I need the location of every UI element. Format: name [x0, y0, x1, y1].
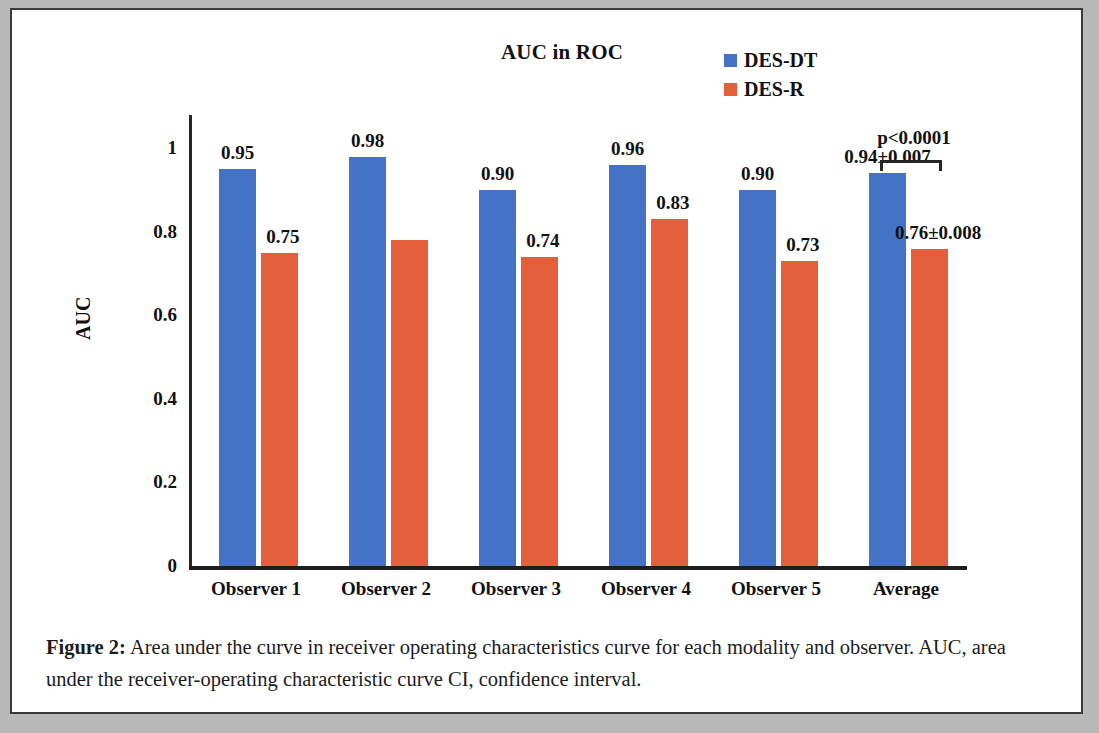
bar-group: 0.960.83Observer 4 [581, 115, 711, 566]
y-tick-label: 0.6 [153, 304, 177, 326]
significance-pvalue-label: p<0.0001 [849, 127, 979, 149]
bar-des-r-observer-2[interactable] [391, 115, 428, 566]
legend-item-des-dt[interactable]: DES-DT [724, 46, 924, 75]
bar-rect [349, 157, 386, 566]
y-tick-label: 0.4 [153, 388, 177, 410]
bar-group: 0.94±0.0070.76±0.008Average [841, 115, 971, 566]
bar-value-label: 0.75 [266, 227, 299, 246]
bar-value-label: 0.96 [611, 139, 644, 158]
bar-des-dt-observer-5[interactable]: 0.90 [739, 115, 776, 566]
caption-label: Figure 2: [46, 636, 126, 658]
bar-des-r-observer-5[interactable]: 0.73 [781, 115, 818, 566]
bar-rect [261, 253, 298, 566]
bar-rect [609, 165, 646, 566]
bar-group: 0.98Observer 2 [321, 115, 451, 566]
bar-value-label: 0.95 [221, 143, 254, 162]
x-category-label: Observer 2 [321, 578, 451, 600]
bar-rect [391, 240, 428, 566]
y-tick-label: 0.2 [153, 471, 177, 493]
y-tick-label: 0 [168, 555, 178, 577]
x-category-label: Average [841, 578, 971, 600]
bar-group: 0.950.75Observer 1 [191, 115, 321, 566]
legend-label-des-dt: DES-DT [744, 49, 817, 72]
bar-rect [651, 219, 688, 566]
figure-frame: AUC in ROC DES-DT DES-R 00.20.40.60.81 0… [10, 8, 1083, 714]
y-tick-label: 0.8 [153, 221, 177, 243]
x-category-label: Observer 5 [711, 578, 841, 600]
bar-rect [219, 169, 256, 566]
bar-group: 0.900.73Observer 5 [711, 115, 841, 566]
legend-label-des-r: DES-R [744, 78, 804, 101]
bar-des-dt-average[interactable]: 0.94±0.007 [869, 115, 906, 566]
significance-bracket-icon [880, 160, 942, 171]
bar-value-label: 0.73 [786, 235, 819, 254]
bar-des-dt-observer-2[interactable]: 0.98 [349, 115, 386, 566]
bar-rect [521, 257, 558, 566]
legend-swatch-blue-icon [724, 54, 737, 67]
x-category-label: Observer 1 [191, 578, 321, 600]
y-tick-label: 1 [168, 137, 178, 159]
bar-value-label: 0.90 [741, 164, 774, 183]
bar-value-label: 0.74 [526, 231, 559, 250]
chart-title: AUC in ROC [412, 40, 712, 65]
bar-group: 0.900.74Observer 3 [451, 115, 581, 566]
x-category-label: Observer 3 [451, 578, 581, 600]
chart: AUC in ROC DES-DT DES-R 00.20.40.60.81 0… [12, 10, 1081, 618]
bar-value-label: 0.98 [351, 131, 384, 150]
bar-value-label: 0.83 [656, 193, 689, 212]
legend-swatch-red-icon [724, 83, 737, 96]
bar-value-label: 0.90 [481, 164, 514, 183]
bar-des-dt-observer-1[interactable]: 0.95 [219, 115, 256, 566]
caption-text: Area under the curve in receiver operati… [46, 636, 1006, 690]
bar-rect [911, 249, 948, 566]
y-axis-title: AUC [72, 297, 95, 340]
bar-des-dt-observer-3[interactable]: 0.90 [479, 115, 516, 566]
figure-caption: Figure 2: Area under the curve in receiv… [46, 632, 1046, 696]
legend-item-des-r[interactable]: DES-R [724, 75, 924, 104]
x-axis-line [189, 566, 967, 570]
bar-rect [739, 190, 776, 566]
bar-rect [479, 190, 516, 566]
bar-des-r-observer-4[interactable]: 0.83 [651, 115, 688, 566]
bar-des-r-observer-3[interactable]: 0.74 [521, 115, 558, 566]
bar-des-r-average[interactable]: 0.76±0.008 [911, 115, 948, 566]
x-category-label: Observer 4 [581, 578, 711, 600]
bar-rect [781, 261, 818, 566]
bar-value-label: 0.76±0.008 [895, 223, 981, 242]
bar-des-r-observer-1[interactable]: 0.75 [261, 115, 298, 566]
legend: DES-DT DES-R [724, 46, 924, 104]
plot-area: 00.20.40.60.81 0.950.75Observer 10.98Obs… [189, 115, 967, 568]
bar-des-dt-observer-4[interactable]: 0.96 [609, 115, 646, 566]
